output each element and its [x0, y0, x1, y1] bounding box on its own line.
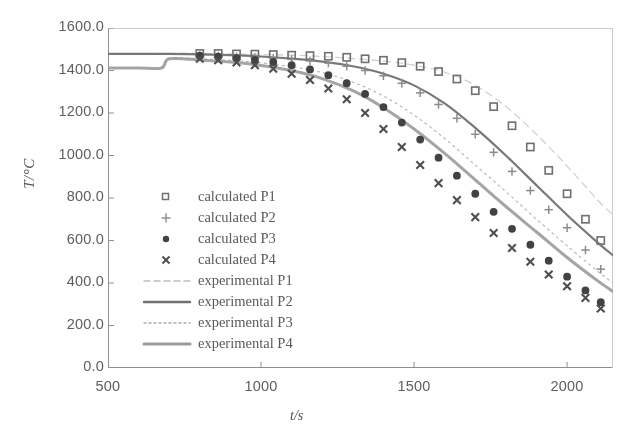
legend-item-label: experimental P3: [192, 314, 293, 331]
legend-open-square-icon: [140, 187, 192, 207]
legend-item: experimental P2: [140, 291, 370, 312]
legend-solid-gray-icon: [140, 334, 192, 354]
legend-item: experimental P4: [140, 333, 370, 354]
legend-item: experimental P1: [140, 270, 370, 291]
legend-item-label: experimental P2: [192, 293, 293, 310]
x-tick-label: 2000: [537, 378, 597, 394]
legend-item-label: calculated P1: [192, 188, 276, 205]
legend-item-label: calculated P2: [192, 209, 276, 226]
legend-item: calculated P3: [140, 228, 370, 249]
legend-dashed-light-icon: [140, 271, 192, 291]
figure-canvas: T/°C t/s 0.0200.0400.0600.0800.01000.012…: [0, 0, 644, 441]
legend-solid-dark-icon: [140, 292, 192, 312]
x-tick-label: 500: [78, 378, 138, 394]
x-tick-label: 1500: [384, 378, 444, 394]
legend-item-label: calculated P3: [192, 230, 276, 247]
x-tick-label: 1000: [231, 378, 291, 394]
legend-item: calculated P1: [140, 186, 370, 207]
legend-item: calculated P4: [140, 249, 370, 270]
legend-filled-circle-icon: [140, 229, 192, 249]
legend-item: experimental P3: [140, 312, 370, 333]
legend-item-label: experimental P4: [192, 335, 293, 352]
chart-legend: calculated P1calculated P2calculated P3c…: [140, 186, 370, 354]
legend-plus-icon: [140, 208, 192, 228]
legend-item: calculated P2: [140, 207, 370, 228]
legend-x-icon: [140, 250, 192, 270]
legend-item-label: experimental P1: [192, 272, 293, 289]
legend-dotted-icon: [140, 313, 192, 333]
legend-item-label: calculated P4: [192, 251, 276, 268]
